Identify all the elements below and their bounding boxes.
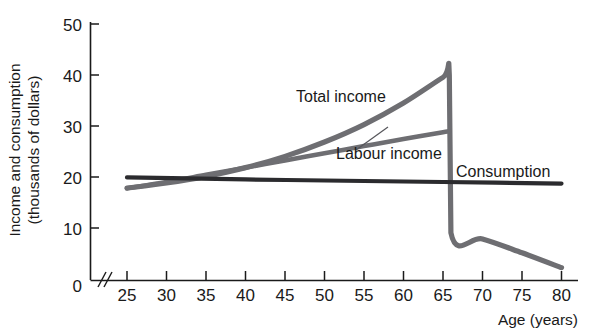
x-tick-label-80: 80 xyxy=(552,286,571,305)
y-tick-label-40: 40 xyxy=(63,67,82,86)
x-tick-label-45: 45 xyxy=(276,286,295,305)
chart-container: 50 40 30 20 10 0 25 30 35 40 45 50 55 60 xyxy=(0,0,601,335)
y-axis-title-line1: Income and consumption xyxy=(6,63,23,236)
y-axis-ticks xyxy=(91,24,100,228)
series-label-consumption: Consumption xyxy=(456,163,550,180)
x-tick-label-35: 35 xyxy=(197,286,216,305)
x-tick-label-50: 50 xyxy=(315,286,334,305)
x-axis-break-icon xyxy=(98,272,112,287)
x-tick-label-25: 25 xyxy=(118,286,137,305)
x-tick-label-65: 65 xyxy=(434,286,453,305)
series-label-labour-income: Labour income xyxy=(336,145,442,162)
y-axis-title-line2: (thousands of dollars) xyxy=(25,75,42,224)
x-tick-label-40: 40 xyxy=(236,286,255,305)
x-tick-label-70: 70 xyxy=(473,286,492,305)
x-axis-title: Age (years) xyxy=(498,311,578,328)
y-tick-label-10: 10 xyxy=(63,220,82,239)
x-tick-label-55: 55 xyxy=(355,286,374,305)
x-tick-label-60: 60 xyxy=(394,286,413,305)
y-tick-label-20: 20 xyxy=(63,169,82,188)
y-tick-label-30: 30 xyxy=(63,118,82,137)
x-tick-label-75: 75 xyxy=(513,286,532,305)
lifecycle-income-chart: 50 40 30 20 10 0 25 30 35 40 45 50 55 60 xyxy=(0,0,601,335)
series-label-total-income: Total income xyxy=(296,88,386,105)
y-tick-label-50: 50 xyxy=(63,16,82,35)
x-axis-ticks xyxy=(127,271,562,281)
y-tick-label-0: 0 xyxy=(73,277,82,296)
x-tick-label-30: 30 xyxy=(157,286,176,305)
